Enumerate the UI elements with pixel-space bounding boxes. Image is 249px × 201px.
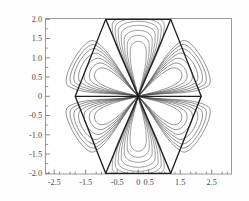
y-tick-label: -1.0 (29, 131, 42, 140)
x-tick-label: -1.5 (79, 178, 92, 187)
center-point (137, 95, 140, 98)
x-tick-labels: -2.5 -1.5 -0.5 0 0.5 1.5 2.5 (48, 178, 217, 187)
y-tick-label: 0 (38, 92, 42, 101)
y-tick-label: 1.0 (32, 54, 42, 63)
x-tick-label: 1.5 (175, 178, 185, 187)
x-tick-label: 0.5 (144, 178, 154, 187)
y-tick-label: 0.5 (32, 73, 42, 82)
x-tick-label: 2.5 (207, 178, 217, 187)
y-tick-label: -0.5 (29, 111, 42, 120)
x-tick-label: -0.5 (111, 178, 124, 187)
x-tick-label: 0 (136, 178, 140, 187)
y-tick-labels: 2.0 1.5 1.0 0.5 0 -0.5 -1.0 -1.5 -2.0 (29, 15, 42, 178)
y-tick-label: 2.0 (32, 15, 42, 24)
y-tick-label: -1.5 (29, 150, 42, 159)
contour-plot: 2.0 1.5 1.0 0.5 0 -0.5 -1.0 -1.5 -2.0 -2… (0, 0, 249, 201)
y-tick-label: -2.0 (29, 169, 42, 178)
x-tick-label: -2.5 (48, 178, 61, 187)
y-tick-label: 1.5 (32, 34, 42, 43)
figure-container: 2.0 1.5 1.0 0.5 0 -0.5 -1.0 -1.5 -2.0 -2… (0, 0, 249, 201)
